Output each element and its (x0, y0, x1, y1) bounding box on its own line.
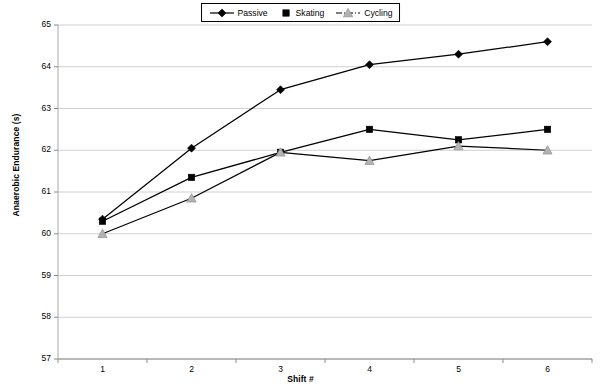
square-marker-icon (99, 218, 105, 224)
chart-container: Anaerobic Endurance (s) Shift # 57585960… (0, 0, 601, 391)
x-axis-tick-label: 5 (444, 365, 474, 374)
series-passive (99, 38, 552, 223)
legend-item-label: Passive (238, 8, 268, 18)
chart-legend: PassiveSkatingCycling (201, 3, 401, 22)
y-axis-tick-label: 63 (27, 104, 51, 113)
legend-item-cycling[interactable]: Cycling (335, 8, 392, 18)
legend-item-passive[interactable]: Passive (209, 8, 268, 18)
diamond-marker-icon (366, 61, 374, 69)
triangle-marker-icon (187, 194, 196, 202)
gridlines (58, 25, 592, 359)
diamond-marker-icon (218, 9, 226, 17)
square-marker-icon (282, 9, 288, 15)
y-axis-tick-label: 65 (27, 20, 51, 29)
square-marker-icon (366, 126, 372, 132)
x-axis-tick-label: 3 (266, 365, 296, 374)
legend-item-label: Skating (296, 8, 325, 18)
x-axis-title: Shift # (0, 374, 601, 384)
square-marker-icon (188, 174, 194, 180)
plot-area (0, 0, 601, 391)
y-axis-tick-label: 61 (27, 187, 51, 196)
x-axis-tick-label: 6 (533, 365, 563, 374)
x-axis-tick-label: 1 (88, 365, 118, 374)
x-axis-tick-label: 4 (355, 365, 385, 374)
legend-item-skating[interactable]: Skating (279, 8, 325, 18)
diamond-marker-icon (455, 50, 463, 58)
y-axis-tick-label: 62 (27, 145, 51, 154)
y-axis-tick-label: 58 (27, 312, 51, 321)
square-marker-icon (279, 8, 293, 18)
series-line (103, 146, 548, 234)
y-axis-tick-label: 57 (27, 354, 51, 363)
series-line (103, 42, 548, 219)
triangle-marker-icon (335, 8, 361, 18)
series-skating (99, 126, 550, 224)
diamond-marker-icon (544, 38, 552, 46)
y-axis-title: Anaerobic Endurance (s) (11, 65, 21, 265)
y-axis-tick-label: 60 (27, 229, 51, 238)
diamond-marker-icon (209, 8, 235, 18)
y-axis-tick-label: 64 (27, 62, 51, 71)
diamond-marker-icon (277, 86, 285, 94)
y-axis-tick-label: 59 (27, 271, 51, 280)
x-axis-tick-label: 2 (177, 365, 207, 374)
legend-item-label: Cycling (364, 8, 392, 18)
square-marker-icon (544, 126, 550, 132)
